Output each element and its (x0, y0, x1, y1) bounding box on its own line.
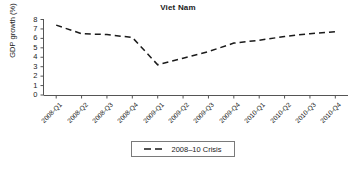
axes (41, 19, 349, 99)
chart-legend: 2008–10 Crisis (131, 141, 235, 157)
series-line-0 (56, 25, 335, 65)
legend-label: 2008–10 Crisis (171, 145, 221, 154)
legend-line-swatch (144, 146, 166, 152)
data-series-group (56, 25, 335, 65)
chart-container: Viet Nam GDP growth (%) 012345678 2008-Q… (0, 0, 356, 171)
